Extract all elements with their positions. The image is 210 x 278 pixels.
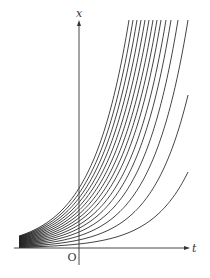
exponential-curve	[19, 20, 161, 242]
t-axis-arrowhead-icon	[184, 246, 190, 250]
x-axis-arrowhead-icon	[77, 20, 81, 26]
exponential-curve	[19, 20, 137, 238]
exponential-curve-family-diagram: x t O	[0, 0, 210, 278]
x-axis-label: x	[76, 7, 83, 20]
origin-label: O	[67, 251, 76, 264]
t-axis-label: t	[192, 242, 197, 255]
curve-family	[19, 20, 188, 248]
exponential-curve	[19, 20, 157, 242]
exponential-curve	[19, 20, 153, 241]
exponential-curve	[19, 20, 149, 240]
exponential-curve	[19, 20, 178, 245]
exponential-curve	[19, 20, 171, 244]
exponential-curve	[19, 20, 145, 239]
